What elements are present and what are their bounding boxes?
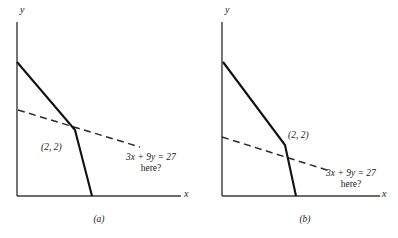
equation-question: here? <box>113 163 189 174</box>
equation-annotation: 3x + 9y = 27 here? <box>113 152 189 173</box>
y-axis-label: y <box>20 4 24 15</box>
solid-curve-b <box>223 62 296 196</box>
dashed-line-b <box>222 137 330 171</box>
solid-curve-a <box>17 62 92 196</box>
figure-container: y x (2, 2) 3x + 9y = 27 here? (a) y x (2… <box>0 0 398 238</box>
x-axis-label: x <box>382 188 386 199</box>
x-axis-label: x <box>184 188 188 199</box>
equation-question: here? <box>313 179 389 190</box>
panel-caption-b: (b) <box>285 214 325 225</box>
kink-point-label: (2, 2) <box>288 130 309 141</box>
equation-text: 3x + 9y = 27 <box>113 152 189 163</box>
panel-a-plot <box>0 0 199 238</box>
panel-b: y x (2, 2) 3x + 9y = 27 here? (b) <box>199 0 398 238</box>
y-axis-label: y <box>225 4 229 15</box>
equation-annotation: 3x + 9y = 27 here? <box>313 168 389 189</box>
kink-point-label: (2, 2) <box>41 142 62 153</box>
panel-b-plot <box>199 0 398 238</box>
panel-caption-a: (a) <box>79 214 119 225</box>
equation-text: 3x + 9y = 27 <box>313 168 389 179</box>
panel-a: y x (2, 2) 3x + 9y = 27 here? (a) <box>0 0 199 238</box>
